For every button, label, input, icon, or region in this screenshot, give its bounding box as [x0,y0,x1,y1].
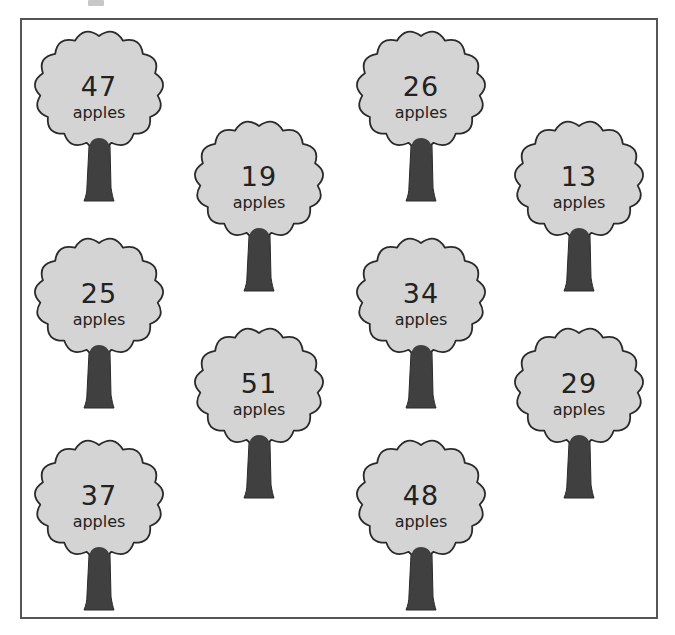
tree-card: 25 apples [32,235,166,411]
tree-card: 26 apples [354,28,488,204]
tree-card: 34 apples [354,235,488,411]
tree-card: 37 apples [32,437,166,613]
apple-unit-label: apples [32,513,166,531]
tree-card: 13 apples [512,118,646,294]
apple-unit-label: apples [512,401,646,419]
apple-count: 47 [32,72,166,102]
apple-unit-label: apples [32,311,166,329]
apple-count: 37 [32,481,166,511]
top-edge-artifact [88,0,104,6]
apple-count: 25 [32,279,166,309]
apple-unit-label: apples [192,401,326,419]
apple-count: 51 [192,369,326,399]
apple-count: 48 [354,481,488,511]
apple-count: 13 [512,162,646,192]
tree-card: 29 apples [512,325,646,501]
apple-unit-label: apples [354,311,488,329]
tree-card: 51 apples [192,325,326,501]
apple-count: 19 [192,162,326,192]
tree-card: 47 apples [32,28,166,204]
apple-count: 34 [354,279,488,309]
tree-card: 48 apples [354,437,488,613]
apple-unit-label: apples [192,194,326,212]
apple-unit-label: apples [354,104,488,122]
apple-count: 29 [512,369,646,399]
apple-count: 26 [354,72,488,102]
apple-unit-label: apples [32,104,166,122]
tree-card: 19 apples [192,118,326,294]
apple-unit-label: apples [354,513,488,531]
apple-unit-label: apples [512,194,646,212]
